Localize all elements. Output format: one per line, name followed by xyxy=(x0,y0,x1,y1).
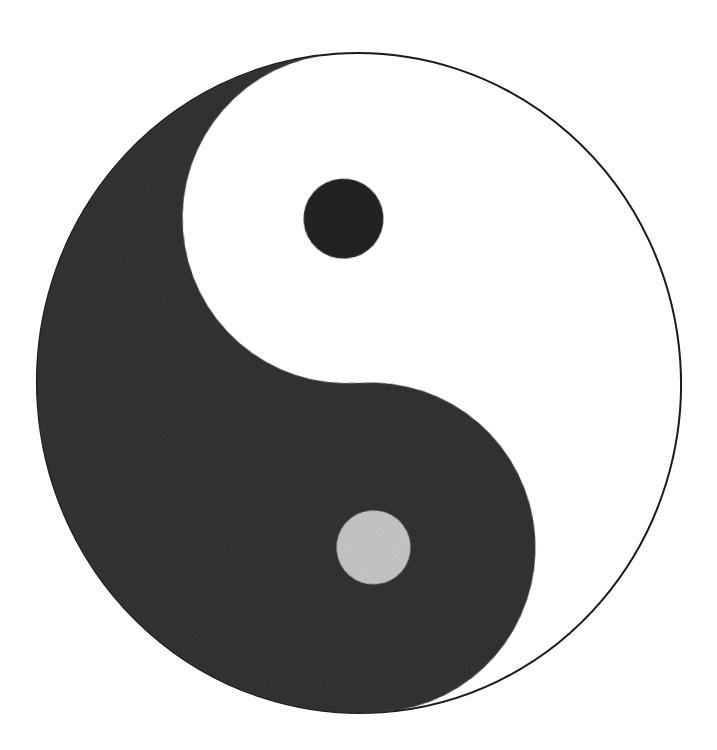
yin-yang-figure xyxy=(0,0,717,750)
image-canvas: Yin Yang symbol (Taijitu) Black and whit… xyxy=(0,0,717,750)
